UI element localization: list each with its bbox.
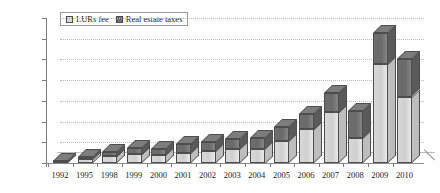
bar-column xyxy=(127,148,142,163)
category-axis-tick xyxy=(368,163,369,167)
category-axis-tick xyxy=(196,163,197,167)
bar-segment-lurs-fee xyxy=(127,154,142,163)
bar-segment-lurs-fee xyxy=(397,97,412,163)
bar-segment-real-estate-taxes xyxy=(250,138,265,149)
bar-segment-real-estate-taxes xyxy=(78,157,93,159)
bar-segment-side-lurs-fee xyxy=(412,89,420,163)
category-axis-tick xyxy=(97,163,98,167)
bar-segment-lurs-fee xyxy=(274,141,289,163)
bar-segment-lurs-fee xyxy=(201,151,216,163)
bar-segment-real-estate-taxes xyxy=(299,114,314,130)
bar-segment-lurs-fee xyxy=(348,138,363,163)
bar-segment-real-estate-taxes xyxy=(373,33,388,64)
bar-segment-lurs-fee xyxy=(225,149,240,163)
bar-segment-real-estate-taxes xyxy=(225,139,240,149)
category-axis-tick xyxy=(294,163,295,167)
category-axis-tick xyxy=(270,163,271,167)
bar-segment-lurs-fee xyxy=(176,153,191,163)
bar-column xyxy=(250,138,265,163)
bar-segment-lurs-fee xyxy=(78,159,93,163)
bar-segment-real-estate-taxes xyxy=(176,144,191,153)
bar-column xyxy=(225,139,240,163)
bar-column xyxy=(176,144,191,163)
category-axis-tick xyxy=(343,163,344,167)
bar-column xyxy=(78,157,93,163)
bar-segment-lurs-fee xyxy=(250,149,265,164)
bar-column xyxy=(397,59,412,163)
bar-segment-real-estate-taxes xyxy=(127,148,142,155)
bar-segment-lurs-fee xyxy=(299,129,314,163)
bar-segment-real-estate-taxes xyxy=(151,149,166,155)
bar-segment-real-estate-taxes xyxy=(201,142,216,151)
bar-segment-lurs-fee xyxy=(151,155,166,163)
bar-segment-real-estate-taxes xyxy=(348,111,363,138)
category-axis-tick xyxy=(48,163,49,167)
bar-column xyxy=(53,161,68,163)
bar-segment-real-estate-taxes xyxy=(397,59,412,96)
bar-segment-real-estate-taxes xyxy=(102,152,117,157)
category-axis-tick xyxy=(220,163,221,167)
bar-segment-real-estate-taxes xyxy=(324,93,339,113)
stacked-bar-chart: LURs fee Real estate taxes 70 00060 0005… xyxy=(0,0,440,193)
bar-column xyxy=(102,152,117,163)
bar-column xyxy=(299,114,314,163)
bar-column xyxy=(274,127,289,163)
category-axis-label: 2010 xyxy=(387,171,421,180)
bar-column xyxy=(348,111,363,163)
category-axis-tick xyxy=(73,163,74,167)
bar-column xyxy=(151,149,166,163)
category-axis-tick xyxy=(393,163,394,167)
bar-column xyxy=(201,142,216,163)
bar-segment-lurs-fee xyxy=(102,156,117,163)
category-axis-tick xyxy=(245,163,246,167)
bar-segment-side-lurs-fee xyxy=(388,56,396,163)
plot-area: 70 00060 00050 00040 00030 00020 00010 0… xyxy=(46,14,432,167)
bar-segment-real-estate-taxes xyxy=(274,127,289,141)
bar-column xyxy=(324,93,339,163)
bar-series-container xyxy=(46,14,432,167)
bar-segment-lurs-fee xyxy=(373,64,388,163)
category-axis-tick xyxy=(171,163,172,167)
bar-column xyxy=(373,33,388,164)
category-axis-tick xyxy=(122,163,123,167)
bar-segment-lurs-fee xyxy=(324,112,339,163)
category-axis-tick xyxy=(147,163,148,167)
category-axis-tick xyxy=(319,163,320,167)
bar-segment-side-lurs-fee xyxy=(339,105,347,163)
